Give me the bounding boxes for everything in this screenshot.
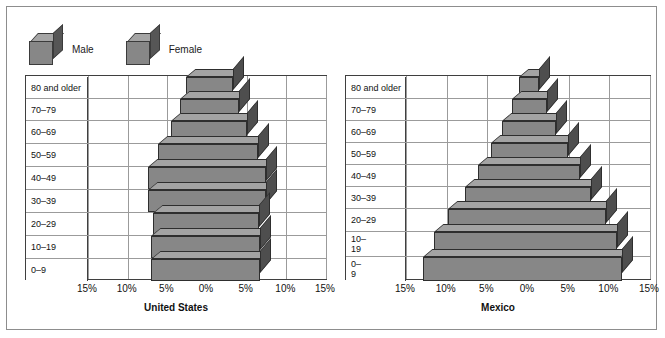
plot-area-mexico: 80 and older70–7960–6950–5940–4930–3920–… bbox=[345, 75, 651, 280]
x-axis-united-states: 15%10%5%0%5%10%15% bbox=[25, 280, 327, 300]
x-tick-label: 10% bbox=[275, 283, 295, 294]
x-tick-label: 15% bbox=[315, 283, 335, 294]
cube-icon bbox=[126, 33, 160, 65]
age-group-label: 40–49 bbox=[26, 167, 88, 189]
age-group-label: 20–29 bbox=[26, 213, 88, 235]
x-tick-label: 10% bbox=[436, 283, 456, 294]
legend-item-female: Female bbox=[126, 33, 202, 65]
gridline bbox=[650, 76, 651, 279]
x-tick-label: 15% bbox=[639, 283, 659, 294]
x-tick-label: 0% bbox=[520, 283, 534, 294]
plot-area-united-states: 80 and older70–7960–6950–5940–4930–3920–… bbox=[25, 75, 327, 280]
age-group-label: 0–9 bbox=[346, 257, 406, 281]
chart-panel-mexico: 80 and older70–7960–6950–5940–4930–3920–… bbox=[345, 75, 651, 313]
age-group-label: 70–79 bbox=[26, 99, 88, 120]
gridline bbox=[88, 76, 89, 279]
age-group-label: 30–39 bbox=[26, 190, 88, 212]
gridline bbox=[326, 76, 327, 279]
panel-title-united-states: United States bbox=[25, 302, 327, 313]
x-tick-label: 5% bbox=[238, 283, 252, 294]
age-group-label: 50–59 bbox=[346, 143, 406, 164]
pyramid-bar bbox=[151, 259, 260, 281]
x-tick-label: 15% bbox=[77, 283, 97, 294]
age-group-label: 40–49 bbox=[346, 165, 406, 186]
age-group-label: 60–69 bbox=[346, 121, 406, 142]
age-group-label: 10–19 bbox=[346, 232, 406, 256]
legend-item-male: Male bbox=[29, 33, 94, 65]
gridline bbox=[128, 76, 129, 279]
age-group-label: 30–39 bbox=[346, 187, 406, 208]
x-axis-mexico: 15%10%5%0%5%10%15% bbox=[345, 280, 651, 300]
x-tick-label: 15% bbox=[395, 283, 415, 294]
cube-icon bbox=[29, 33, 63, 65]
figure-frame: Male Female 80 and older70–7960–6950–594… bbox=[6, 6, 657, 330]
chart-panel-united-states: 80 and older70–7960–6950–5940–4930–3920–… bbox=[25, 75, 327, 313]
x-tick-label: 0% bbox=[199, 283, 213, 294]
age-group-label: 80 and older bbox=[346, 77, 406, 98]
gridline bbox=[406, 76, 407, 279]
x-tick-label: 5% bbox=[159, 283, 173, 294]
age-group-label: 70–79 bbox=[346, 99, 406, 120]
gridline bbox=[286, 76, 287, 279]
age-group-label: 10–19 bbox=[26, 236, 88, 258]
x-tick-label: 5% bbox=[560, 283, 574, 294]
panel-title-mexico: Mexico bbox=[345, 302, 651, 313]
age-group-label: 20–29 bbox=[346, 209, 406, 231]
x-tick-label: 10% bbox=[598, 283, 618, 294]
chart-legend: Male Female bbox=[29, 32, 234, 66]
age-group-label: 60–69 bbox=[26, 121, 88, 143]
age-group-label: 0–9 bbox=[26, 259, 88, 281]
legend-label-female: Female bbox=[169, 44, 202, 55]
legend-label-male: Male bbox=[72, 44, 94, 55]
x-tick-label: 10% bbox=[117, 283, 137, 294]
age-group-label: 80 and older bbox=[26, 77, 88, 98]
age-group-label: 50–59 bbox=[26, 144, 88, 166]
x-tick-label: 5% bbox=[479, 283, 493, 294]
pyramid-bar bbox=[423, 257, 621, 281]
